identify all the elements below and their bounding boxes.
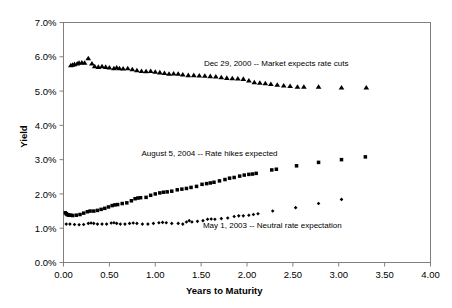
data-point-diamond: [146, 222, 150, 226]
data-point-square: [149, 194, 153, 198]
data-point-diamond: [77, 223, 81, 227]
data-point-square: [116, 203, 120, 207]
data-point-diamond: [123, 222, 127, 226]
x-tick-label: 0.00: [54, 269, 73, 280]
data-point-diamond: [64, 222, 68, 226]
data-point-diamond: [237, 214, 241, 218]
data-point-square: [154, 192, 158, 196]
data-point-triangle: [196, 73, 202, 78]
data-point-square: [130, 199, 134, 203]
x-tick-label: 1.00: [146, 269, 165, 280]
data-point-diamond: [170, 222, 174, 226]
data-point-diamond: [73, 223, 77, 227]
data-point-triangle: [139, 68, 145, 73]
data-point-diamond: [161, 221, 165, 225]
data-point-triangle: [246, 78, 252, 83]
data-point-diamond: [232, 215, 236, 219]
data-point-triangle: [157, 70, 163, 75]
y-tick-label: 5.0%: [35, 86, 57, 97]
data-point-diamond: [135, 222, 139, 226]
y-tick-label: 4.0%: [35, 120, 57, 131]
data-point-square: [78, 213, 82, 217]
data-point-diamond: [340, 198, 344, 202]
chart-container: 0.0%1.0%2.0%3.0%4.0%5.0%6.0%7.0%0.000.50…: [0, 0, 452, 308]
data-point-triangle: [202, 73, 208, 78]
data-point-triangle: [162, 71, 168, 76]
data-point-diamond: [181, 222, 185, 226]
data-point-square: [209, 181, 213, 185]
data-point-square: [176, 188, 180, 192]
data-point-diamond: [317, 202, 321, 206]
data-point-diamond: [271, 209, 275, 213]
data-point-diamond: [105, 222, 109, 226]
data-point-diamond: [252, 213, 256, 217]
data-point-triangle: [301, 84, 307, 89]
data-point-square: [200, 183, 204, 187]
data-point-triangle: [152, 69, 158, 74]
data-point-triangle: [218, 75, 224, 80]
data-point-square: [340, 158, 344, 162]
data-point-triangle: [89, 61, 95, 66]
chart-plot-area: 0.0%1.0%2.0%3.0%4.0%5.0%6.0%7.0%0.000.50…: [0, 0, 452, 308]
data-point-square: [180, 187, 184, 191]
y-tick-label: 7.0%: [35, 17, 57, 28]
annotation-dec-2000: Dec 29, 2000 -- Market expects rate cuts: [204, 59, 349, 68]
x-tick-label: 2.50: [284, 269, 303, 280]
annotation-aug-2004: August 5, 2004 -- Rate hikes expected: [141, 149, 277, 158]
data-point-square: [96, 209, 100, 213]
data-point-diamond: [141, 222, 145, 226]
data-point-triangle: [213, 74, 219, 79]
data-point-square: [364, 155, 368, 159]
data-point-diamond: [131, 221, 135, 225]
x-tick-label: 1.50: [192, 269, 211, 280]
data-point-square: [223, 178, 227, 182]
data-point-square: [275, 167, 279, 171]
data-point-triangle: [175, 71, 181, 76]
data-point-triangle: [129, 67, 135, 72]
data-point-diamond: [164, 221, 168, 225]
data-point-diamond: [109, 221, 113, 225]
data-point-triangle: [229, 76, 235, 81]
data-point-square: [232, 176, 236, 180]
data-point-triangle: [185, 73, 191, 78]
data-point-diamond: [119, 222, 123, 226]
data-point-square: [158, 191, 162, 195]
data-point-square: [238, 174, 242, 178]
data-point-square: [170, 189, 174, 193]
data-point-triangle: [180, 72, 186, 77]
data-point-triangle: [224, 75, 230, 80]
data-point-square: [162, 190, 166, 194]
x-tick-label: 0.50: [100, 269, 119, 280]
data-point-square: [125, 201, 129, 205]
data-point-triangle: [339, 85, 345, 90]
data-point-triangle: [363, 85, 369, 90]
data-point-triangle: [207, 74, 213, 79]
data-point-diamond: [82, 223, 86, 227]
data-point-square: [247, 173, 251, 177]
data-point-triangle: [235, 76, 241, 81]
data-point-square: [189, 186, 193, 190]
data-point-triangle: [251, 80, 257, 85]
data-point-diamond: [86, 222, 90, 226]
data-point-triangle: [171, 71, 177, 76]
data-point-triangle: [148, 68, 154, 73]
data-point-diamond: [242, 214, 246, 218]
data-point-triangle: [85, 56, 91, 61]
y-tick-label: 0.0%: [35, 257, 57, 268]
annotation-may-2003: May 1, 2003 -- Neutral rate expectation: [203, 221, 342, 230]
x-tick-label: 3.00: [330, 269, 349, 280]
data-point-diamond: [100, 222, 104, 226]
data-point-square: [254, 172, 258, 176]
data-point-triangle: [316, 84, 322, 89]
y-axis-title: Yield: [18, 107, 29, 167]
y-tick-label: 1.0%: [35, 223, 57, 234]
x-tick-label: 2.00: [238, 269, 257, 280]
data-point-diamond: [96, 222, 100, 226]
data-point-diamond: [128, 222, 132, 226]
data-point-square: [103, 207, 107, 211]
data-point-square: [75, 213, 79, 217]
data-point-square: [228, 176, 232, 180]
data-point-triangle: [240, 76, 246, 81]
data-point-diamond: [196, 220, 200, 224]
data-point-triangle: [191, 73, 197, 78]
